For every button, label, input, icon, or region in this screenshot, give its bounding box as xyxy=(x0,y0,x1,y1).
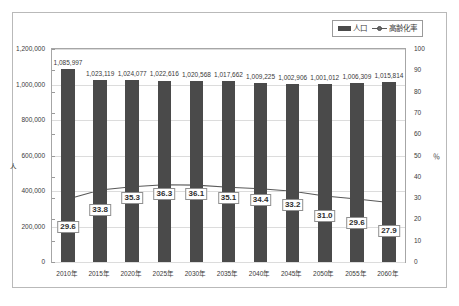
x-axis-tick-label: 2045年 xyxy=(281,268,302,278)
y-axis-right-tick-label: 0 xyxy=(414,258,418,265)
bar xyxy=(93,80,106,262)
y-axis-right-tick-label: 60 xyxy=(414,130,421,137)
y-axis-right-tick xyxy=(52,92,55,93)
y-axis-right-tick xyxy=(52,113,55,114)
y-axis-right-tick-label: 20 xyxy=(414,215,421,222)
gridline xyxy=(52,49,405,50)
y-axis-right-tick-label: 10 xyxy=(414,236,421,243)
x-axis-tick-label: 2010年 xyxy=(56,268,77,278)
x-axis-tick-label: 2020年 xyxy=(120,268,141,278)
bar-value-label: 1,023,119 xyxy=(86,70,114,77)
y-axis-right-tick xyxy=(52,219,55,220)
bar-value-label: 1,022,616 xyxy=(150,70,179,77)
y-axis-left: 0200,000400,000600,000800,0001,000,0001,… xyxy=(0,48,49,263)
legend-label-population: 人口 xyxy=(353,25,367,33)
bar xyxy=(222,81,235,262)
y-axis-right-tick-label: 100 xyxy=(414,45,425,52)
y-axis-right-tick xyxy=(52,198,55,199)
y-axis-left-tick-label: 1,200,000 xyxy=(16,45,45,52)
bar xyxy=(350,83,363,262)
bar-swatch-icon xyxy=(338,26,351,31)
y-axis-right-tick-label: 30 xyxy=(414,194,421,201)
bar-value-label: 1,002,906 xyxy=(278,74,307,81)
x-axis-tick-label: 2040年 xyxy=(249,268,270,278)
bar xyxy=(254,83,267,262)
y-axis-right-tick-label: 50 xyxy=(414,151,421,158)
legend-label-aging-rate: 高齢化率 xyxy=(389,25,417,33)
y-axis-right-tick xyxy=(52,134,55,135)
y-axis-right-tick xyxy=(52,241,55,242)
line-marker-icon xyxy=(372,25,387,32)
bar-value-label: 1,017,662 xyxy=(214,71,243,78)
y-axis-right-tick xyxy=(52,177,55,178)
y-axis-left-tick-label: 800,000 xyxy=(22,116,46,123)
y-axis-right-tick xyxy=(52,262,55,263)
line-value-label: 33.8 xyxy=(89,204,111,216)
y-axis-left-tick-label: 200,000 xyxy=(22,222,46,229)
legend-item-aging-rate: 高齢化率 xyxy=(372,25,417,33)
y-axis-left-tick-label: 400,000 xyxy=(22,187,46,194)
plot-area: 1,085,9971,023,1191,024,0771,022,6161,02… xyxy=(51,48,406,263)
bar-value-label: 1,085,997 xyxy=(54,59,83,66)
x-axis: 2010年2015年2020年2025年2030年2035年2040年2045年… xyxy=(51,265,406,281)
y-axis-left-tick-label: 0 xyxy=(41,258,45,265)
x-axis-tick-label: 2055年 xyxy=(345,268,366,278)
x-axis-tick-label: 2035年 xyxy=(217,268,238,278)
line-value-label: 27.9 xyxy=(378,225,400,237)
bar xyxy=(125,80,138,262)
bar xyxy=(318,84,331,262)
line-value-label: 33.2 xyxy=(282,199,304,211)
bar-value-label: 1,024,077 xyxy=(118,70,147,77)
y-axis-left-tick-label: 1,000,000 xyxy=(16,80,45,87)
figure: 人口 高齢化率 0200,000400,000600,000800,0001,0… xyxy=(0,0,459,306)
bar-value-label: 1,001,012 xyxy=(310,74,339,81)
bar xyxy=(286,84,299,262)
line-value-label: 35.1 xyxy=(218,192,240,204)
bar xyxy=(61,69,74,262)
y-axis-left-unit: 人 xyxy=(10,161,17,171)
gridline xyxy=(52,262,405,263)
x-axis-tick-label: 2060年 xyxy=(377,268,398,278)
y-axis-right: 0102030405060708090100％ xyxy=(407,48,447,263)
y-axis-right-tick xyxy=(52,70,55,71)
bar xyxy=(158,81,171,263)
y-axis-right-tick xyxy=(52,49,55,50)
line-value-label: 35.3 xyxy=(121,192,143,204)
y-axis-right-tick-label: 70 xyxy=(414,108,421,115)
bar xyxy=(190,81,203,262)
line-value-label: 29.6 xyxy=(346,217,368,229)
legend-item-population: 人口 xyxy=(338,25,367,33)
y-axis-right-tick-label: 40 xyxy=(414,172,421,179)
y-axis-right-tick xyxy=(52,156,55,157)
line-value-label: 31.0 xyxy=(314,210,336,222)
bar-value-label: 1,009,225 xyxy=(246,73,275,80)
line-value-label: 29.6 xyxy=(57,221,79,233)
y-axis-right-tick-label: 90 xyxy=(414,66,421,73)
x-axis-tick-label: 2015年 xyxy=(88,268,109,278)
bar-value-label: 1,020,568 xyxy=(182,71,211,78)
y-axis-left-tick-label: 600,000 xyxy=(22,151,46,158)
line-value-label: 36.1 xyxy=(186,188,208,200)
chart-legend: 人口 高齢化率 xyxy=(332,20,423,37)
bar-value-label: 1,015,814 xyxy=(374,72,403,79)
bar-value-label: 1,006,309 xyxy=(342,73,371,80)
x-axis-tick-label: 2025年 xyxy=(153,268,174,278)
y-axis-right-unit: ％ xyxy=(433,151,440,161)
line-value-label: 36.3 xyxy=(154,188,176,200)
x-axis-tick-label: 2050年 xyxy=(313,268,334,278)
line-value-label: 34.4 xyxy=(250,194,272,206)
y-axis-right-tick-label: 80 xyxy=(414,87,421,94)
x-axis-tick-label: 2030年 xyxy=(185,268,206,278)
